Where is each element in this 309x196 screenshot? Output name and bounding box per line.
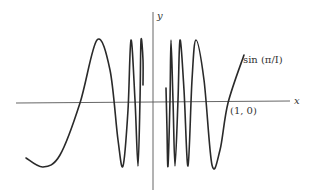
y-axis-label: y [157, 11, 163, 21]
function-label: sin (π/I) [243, 55, 283, 65]
plot-canvas [0, 0, 309, 196]
x-axis-label: x [294, 96, 300, 106]
point-annotation: (1, 0) [230, 106, 257, 116]
